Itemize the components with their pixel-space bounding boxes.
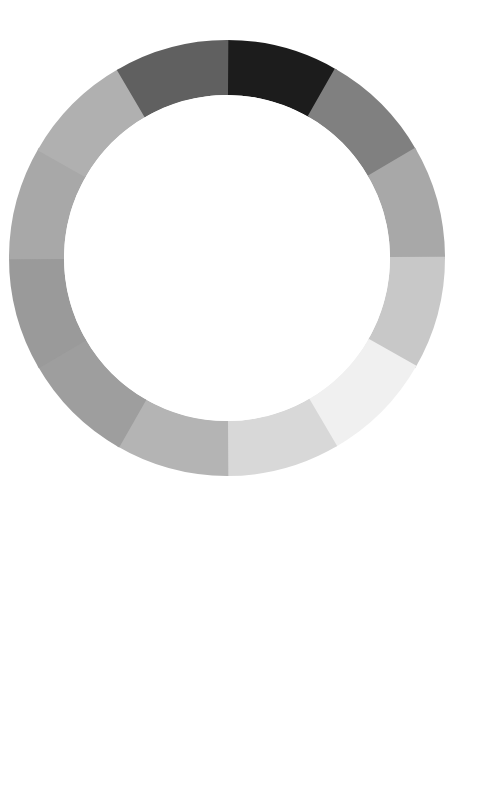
ring-center-hole — [64, 95, 390, 421]
figure-canvas — [0, 0, 486, 792]
segmented-ring-chart[interactable] — [0, 0, 486, 792]
